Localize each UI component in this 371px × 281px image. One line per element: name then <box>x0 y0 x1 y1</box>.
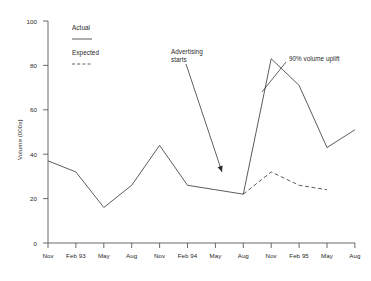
y-tick-label: 40 <box>21 151 37 158</box>
y-axis-ticks <box>43 21 48 243</box>
y-tick-label: 20 <box>21 195 37 202</box>
series-line-expected <box>243 172 327 194</box>
legend-label-expected: Expected <box>72 49 99 56</box>
legend-label-actual: Actual <box>72 24 90 31</box>
series-line-actual <box>48 59 355 208</box>
line-chart: Volume (000s) 100 80 60 40 20 0 Nov Feb … <box>0 0 371 281</box>
annotation-arrowhead-advertising-starts <box>218 165 223 172</box>
x-axis-ticks <box>48 243 355 248</box>
y-tick-label: 80 <box>21 62 37 69</box>
annotation-leader-volume-uplift <box>262 62 286 92</box>
y-tick-label: 0 <box>21 240 37 247</box>
annotation-leader-advertising-starts <box>186 64 222 172</box>
chart-canvas <box>0 0 371 281</box>
x-tick-label: Aug <box>339 252 371 259</box>
annotation-volume-uplift: 90% volume uplift <box>289 55 340 63</box>
y-tick-label: 100 <box>21 18 37 25</box>
y-tick-label: 60 <box>21 106 37 113</box>
annotation-leaders <box>186 62 286 172</box>
annotation-advertising-starts: Advertising starts <box>171 48 203 63</box>
